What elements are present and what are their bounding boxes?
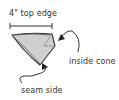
- top-edge-label: 4" top edge: [9, 10, 57, 18]
- cone-shape: [12, 33, 55, 65]
- arrow-seam-side-icon: [20, 63, 48, 83]
- measurement-bracket: [10, 23, 52, 29]
- inside-cone-label: inside cone: [69, 58, 116, 66]
- seam-side-label: seam side: [21, 87, 63, 95]
- cone-diagram: 4" top edge inside cone seam side: [0, 0, 119, 100]
- arrow-inside-cone-icon: [58, 31, 79, 52]
